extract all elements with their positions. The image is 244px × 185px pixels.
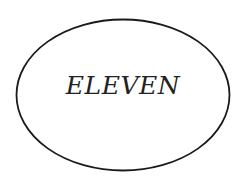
ellipse-label: ELEVEN [0,72,244,100]
